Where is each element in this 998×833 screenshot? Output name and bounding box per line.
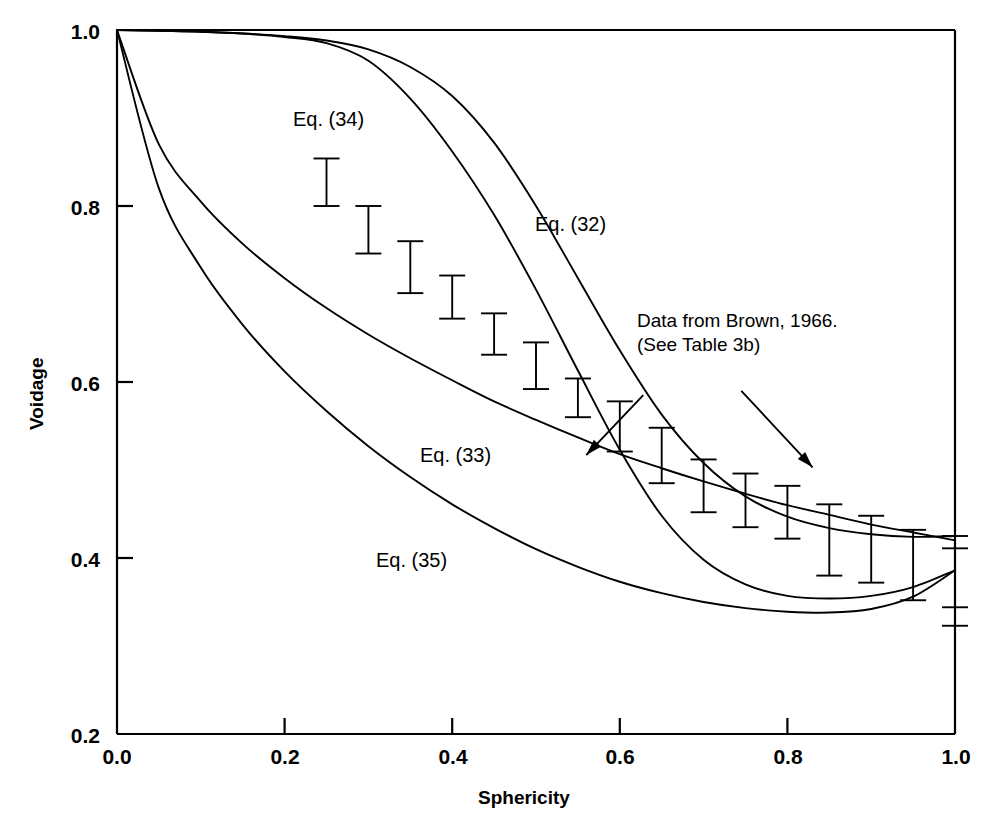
x-tick-label-1.0: 1.0 [926, 745, 986, 769]
plot-canvas [0, 0, 998, 833]
curve-eq-32 [117, 30, 955, 537]
x-tick-label-0.8: 0.8 [758, 745, 818, 769]
y-tick-label-0.8: 0.8 [40, 196, 100, 220]
y-tick-label-0.6: 0.6 [40, 372, 100, 396]
errorbar-9 [691, 459, 717, 512]
voidage-sphericity-chart: 1.0 0.8 0.6 0.4 0.2 0.0 0.2 0.4 0.6 0.8 … [0, 0, 998, 833]
errorbar-5 [523, 342, 549, 389]
data-source-line-2: (See Table 3b) [637, 333, 838, 357]
curve-label-eq35: Eq. (35) [376, 549, 447, 572]
errorbar-7 [607, 401, 633, 451]
errorbar-8 [649, 428, 675, 483]
errorbar-3 [439, 276, 465, 319]
errorbar-12 [816, 504, 842, 575]
errorbar-15 [942, 607, 968, 625]
y-axis-title: Voidage [26, 358, 48, 431]
x-tick-label-0.0: 0.0 [87, 745, 147, 769]
errorbar-10 [733, 474, 759, 528]
x-axis-title: Sphericity [478, 787, 570, 809]
errorbar-4 [481, 313, 507, 354]
x-tick-label-0.4: 0.4 [423, 745, 483, 769]
x-tick-label-0.2: 0.2 [255, 745, 315, 769]
curve-eq-33 [117, 30, 955, 540]
errorbar-2 [397, 241, 423, 293]
errorbar-1 [355, 206, 381, 254]
curve-label-eq33: Eq. (33) [420, 444, 491, 467]
x-tick-label-0.6: 0.6 [590, 745, 650, 769]
y-tick-label-0.4: 0.4 [40, 548, 100, 572]
errorbar-6 [565, 378, 591, 417]
data-source-annotation: Data from Brown, 1966. (See Table 3b) [637, 309, 838, 357]
errorbar-0 [314, 158, 340, 206]
annotation-arrow-0-1 [741, 391, 812, 468]
y-tick-label-1.0: 1.0 [40, 20, 100, 44]
curve-label-eq34: Eq. (34) [293, 108, 364, 131]
curve-label-eq32: Eq. (32) [535, 213, 606, 236]
data-source-line-1: Data from Brown, 1966. [637, 309, 838, 333]
